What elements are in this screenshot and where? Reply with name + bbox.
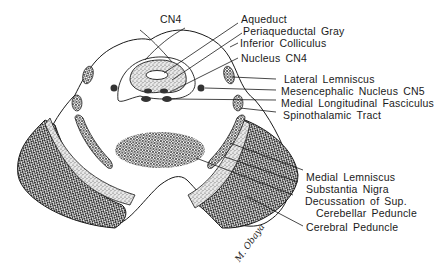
mlf-left [141,96,151,102]
mlf-right [162,96,172,102]
mesencephalic-nucleus-cn5-left [111,85,118,92]
label-mesencephalic-nucleus-cn5: Mesencephalic Nucleus CN5 [281,85,425,97]
spinothalamic-tract-right [233,95,243,111]
label-periaqueductal-gray: Periaqueductal Gray [243,25,345,37]
label-cerebral-peduncle: Cerebral Peduncle [306,221,398,233]
mesencephalic-nucleus-cn5-right [198,85,205,92]
label-decussation-line1: Decussation of Sup. [305,195,407,207]
spinothalamic-tract-left [72,95,82,111]
label-spinothalamic-tract: Spinothalamic Tract [283,109,381,121]
label-lateral-lemniscus: Lateral Lemniscus [284,73,375,85]
midbrain-diagram: CN4 Aqueduct Periaqueductal Gray Inferio… [0,0,443,270]
label-inferior-colliculus: Inferior Colliculus [240,37,326,49]
label-medial-longitudinal-fasciculus: Medial Longitudinal Fasciculus [281,97,434,109]
label-substantia-nigra: Substantia Nigra [306,183,389,195]
label-decussation-line2: Cerebellar Peduncle [316,207,417,219]
decussation-sup-cerebellar-peduncle [115,132,205,168]
label-cn4: CN4 [160,13,182,25]
aqueduct [146,71,168,80]
label-aqueduct: Aqueduct [241,13,287,25]
label-medial-lemniscus: Medial Lemniscus [306,171,395,183]
nucleus-cn4-left [144,89,152,94]
label-nucleus-cn4: Nucleus CN4 [241,52,307,64]
nucleus-cn4-right [160,89,168,94]
